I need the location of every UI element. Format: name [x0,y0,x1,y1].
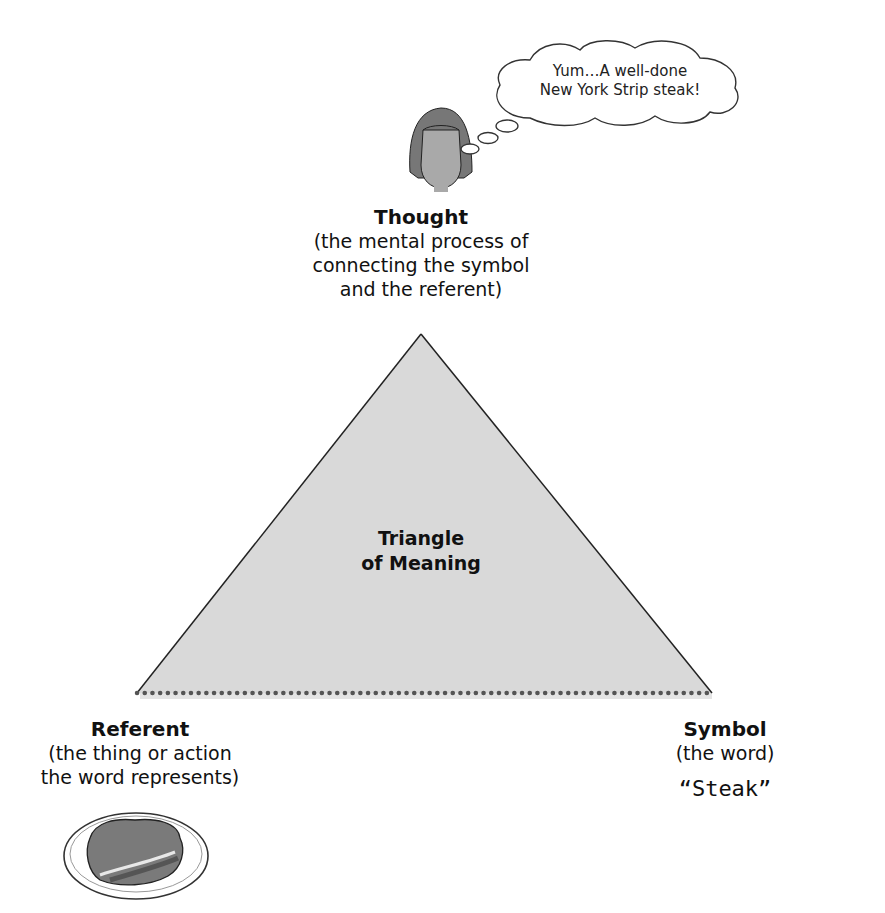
thought-bubble-text: Yum…A well-done New York Strip steak! [500,62,740,100]
steak-plate-icon [64,813,208,899]
thought-label: Thought (the mental process of connectin… [271,205,571,301]
symbol-label: Symbol (the word) “Steak” [630,717,820,801]
symbol-title: Symbol [630,717,820,741]
thought-desc-line-1: (the mental process of [271,229,571,253]
thought-bubble-line-2: New York Strip steak! [500,81,740,100]
symbol-word: “Steak” [630,777,820,801]
thought-desc-line-3: and the referent) [271,277,571,301]
referent-desc-line-1: (the thing or action [10,741,270,765]
triangle-label: Triangle of Meaning [321,526,521,576]
triangle-label-line-2: of Meaning [321,551,521,576]
referent-label: Referent (the thing or action the word r… [10,717,270,789]
triangle-label-line-1: Triangle [321,526,521,551]
symbol-desc: (the word) [630,741,820,765]
triangle-of-meaning-shape [137,334,712,693]
thought-title: Thought [271,205,571,229]
referent-title: Referent [10,717,270,741]
referent-desc-line-2: the word represents) [10,765,270,789]
thought-desc-line-2: connecting the symbol [271,253,571,277]
thought-bubble-line-1: Yum…A well-done [500,62,740,81]
